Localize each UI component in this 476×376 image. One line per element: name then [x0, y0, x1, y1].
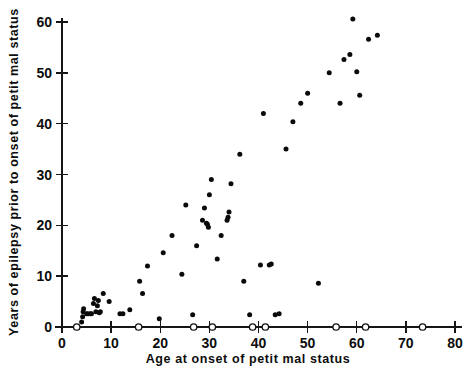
data-point: [366, 37, 371, 42]
data-point: [228, 181, 233, 186]
data-point: [247, 312, 252, 317]
x-tick-label: 60: [349, 335, 365, 351]
data-point: [80, 314, 85, 319]
y-tick-label: 10: [36, 268, 52, 284]
x-tick-label: 20: [152, 335, 168, 351]
data-point: [95, 303, 100, 308]
data-point: [140, 291, 145, 296]
data-point: [137, 279, 142, 284]
data-point: [354, 69, 359, 74]
y-tick-label: 20: [36, 217, 52, 233]
data-point: [107, 299, 112, 304]
data-point: [226, 215, 231, 220]
data-points-layer: [74, 16, 426, 330]
data-point: [145, 264, 150, 269]
data-point: [200, 218, 205, 223]
data-point: [338, 101, 343, 106]
censored-point: [209, 324, 215, 330]
data-point: [206, 225, 211, 230]
y-tick-label: 50: [36, 65, 52, 81]
data-point: [96, 298, 101, 303]
censored-point: [262, 324, 268, 330]
x-tick-label: 50: [300, 335, 316, 351]
data-point: [284, 147, 289, 152]
data-point: [202, 206, 207, 211]
data-point: [157, 316, 162, 321]
x-tick-label: 80: [447, 335, 463, 351]
data-point: [120, 311, 125, 316]
x-tick-label: 40: [251, 335, 267, 351]
data-point: [89, 311, 94, 316]
data-point: [183, 203, 188, 208]
data-point: [237, 152, 242, 157]
x-axis-title: Age at onset of petit mal status: [146, 352, 351, 366]
x-tick-label: 0: [58, 335, 66, 351]
data-point: [261, 111, 266, 116]
data-point: [170, 233, 175, 238]
data-point: [179, 272, 184, 277]
censored-point: [362, 324, 368, 330]
y-tick-label: 60: [36, 14, 52, 30]
censored-point: [74, 324, 80, 330]
data-point: [258, 262, 263, 267]
data-point: [290, 119, 295, 124]
data-point: [375, 33, 380, 38]
y-tick-label: 0: [44, 319, 52, 335]
data-point: [81, 306, 86, 311]
scatter-plot: 0102030405060 01020304050607080 Age at o…: [0, 0, 476, 376]
data-point: [215, 256, 220, 261]
data-point: [127, 307, 132, 312]
x-tick-label: 70: [398, 335, 414, 351]
censored-point: [333, 324, 339, 330]
data-point: [347, 52, 352, 57]
data-point: [209, 177, 214, 182]
data-point: [98, 309, 103, 314]
y-tick-label: 30: [36, 167, 52, 183]
data-point: [101, 291, 106, 296]
data-point: [194, 243, 199, 248]
data-point: [350, 16, 355, 21]
x-tick-label: 10: [103, 335, 119, 351]
x-axis-ticks: 01020304050607080: [58, 321, 463, 351]
censored-point: [419, 324, 425, 330]
data-point: [207, 192, 212, 197]
axes-group: [55, 18, 462, 327]
data-point: [341, 57, 346, 62]
y-axis-ticks: 0102030405060: [36, 14, 68, 335]
data-point: [298, 101, 303, 106]
censored-point: [135, 324, 141, 330]
censored-point: [190, 324, 196, 330]
data-point: [227, 210, 232, 215]
chart-figure: 0102030405060 01020304050607080 Age at o…: [0, 0, 476, 376]
y-axis-title: Years of epilepsy prior to onset of peti…: [7, 8, 21, 336]
data-point: [357, 93, 362, 98]
y-tick-label: 40: [36, 116, 52, 132]
data-point: [79, 319, 84, 324]
data-point: [305, 91, 310, 96]
data-point: [316, 281, 321, 286]
data-point: [241, 279, 246, 284]
x-tick-label: 30: [202, 335, 218, 351]
data-point: [161, 250, 166, 255]
data-point: [327, 70, 332, 75]
censored-point: [249, 324, 255, 330]
data-point: [190, 312, 195, 317]
data-point: [269, 261, 274, 266]
data-point: [219, 233, 224, 238]
data-point: [277, 311, 282, 316]
